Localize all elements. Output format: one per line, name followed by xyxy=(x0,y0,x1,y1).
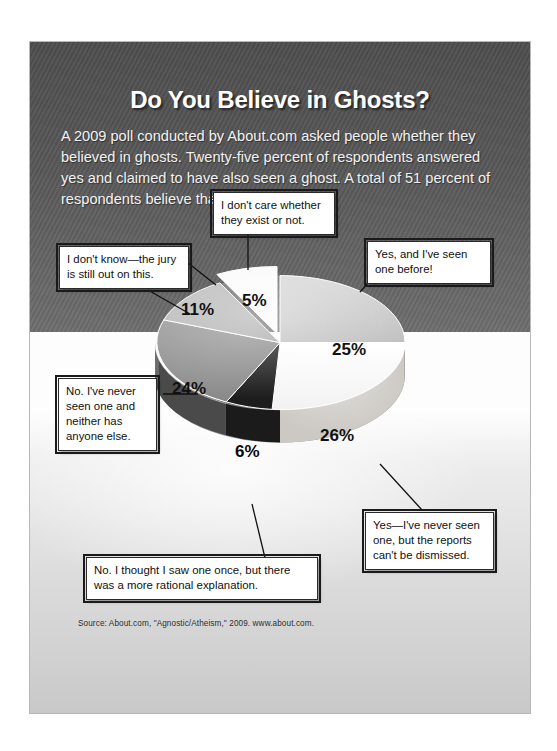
callout-no-rational[interactable]: No. I thought I saw one once, but there … xyxy=(86,557,318,600)
poster-panel: Do You Believe in Ghosts? A 2009 poll co… xyxy=(30,42,530,713)
source-citation: Source: About.com, "Agnostic/Atheism," 2… xyxy=(78,619,314,628)
callout-dont-know[interactable]: I don't know—the jury is still out on th… xyxy=(59,246,189,289)
infographic-page: Do You Believe in Ghosts? A 2009 poll co… xyxy=(0,0,557,751)
callout-dont-care[interactable]: I don't care whether they exist or not. xyxy=(213,192,335,235)
page-title: Do You Believe in Ghosts? xyxy=(30,86,530,114)
callout-yes-reports[interactable]: Yes—I've never seen one, but the reports… xyxy=(365,512,494,570)
callout-no-never[interactable]: No. I've never seen one and neither has … xyxy=(58,378,157,451)
callout-yes-seen[interactable]: Yes, and I've seen one before! xyxy=(367,241,491,284)
